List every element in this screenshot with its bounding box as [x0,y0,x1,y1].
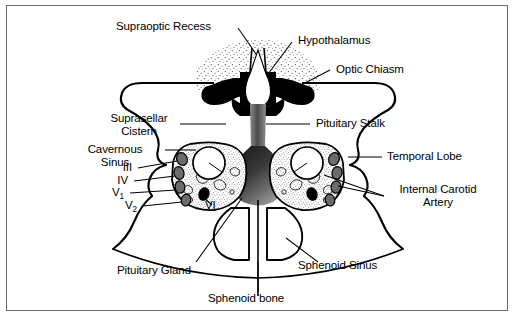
label-cn6: VI [205,199,216,212]
label-sphenoid-sinus: Sphenoid Sinus [298,259,377,272]
sphenoid-sinus-left [214,208,249,260]
label-cn-v2: V2 [105,199,137,212]
label-internal-carotid-line2: Artery [423,196,453,208]
sphenoid-sinus-right [267,208,302,260]
label-suprasellar-cistern: Suprasellar Cistern [98,112,180,138]
label-cn4: IV [96,174,128,187]
label-cn-v2-sub: 2 [133,205,137,214]
leader-cn4 [134,176,175,181]
label-cavernous-sinus-line1: Cavernous [88,143,143,155]
label-optic-chiasm: Optic Chiasm [336,63,404,76]
label-supraoptic-recess: Supraoptic Recess [116,20,211,33]
cavernous-sinus-right [264,138,348,214]
figure-page: Supraoptic Recess Hypothalamus Optic Chi… [0,0,516,320]
label-internal-carotid-line1: Internal Carotid [399,183,476,195]
label-cn-v2-base: V [125,199,133,211]
label-suprasellar-cistern-line1: Suprasellar [110,112,167,124]
label-hypothalamus: Hypothalamus [298,34,370,47]
leader-v1 [130,190,176,193]
label-cn3: III [100,161,132,174]
label-sphenoid-bone: Sphenoid bone [208,292,284,305]
label-internal-carotid-artery: Internal Carotid Artery [386,183,490,209]
label-cn-v1: V1 [92,186,124,199]
label-temporal-lobe: Temporal Lobe [387,150,462,163]
label-pituitary-gland: Pituitary Gland [117,264,191,277]
leader-v2 [143,202,182,206]
label-suprasellar-cistern-line2: Cistern [121,125,157,137]
label-cn-v1-base: V [112,186,120,198]
label-pituitary-stalk: Pituitary Stalk [316,117,385,130]
pituitary-stalk [250,104,266,150]
